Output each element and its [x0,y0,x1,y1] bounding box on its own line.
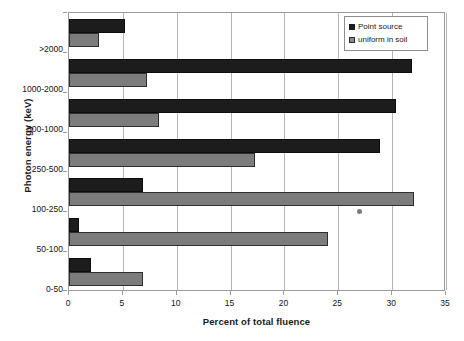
dark-square-icon [349,24,355,30]
x-axis-tick-mark [283,291,284,295]
legend-label: Point source [358,22,402,31]
y-tick-label: 250-500 [3,164,63,174]
x-tick-label: 25 [322,298,352,308]
x-axis-tick-mark [176,291,177,295]
y-axis-tick-mark [63,92,67,93]
x-tick-label: 15 [215,298,245,308]
x-axis-tick-mark [391,291,392,295]
y-tick-label: 1000-2000 [3,84,63,94]
x-tick-label: 20 [268,298,298,308]
y-axis-tick-mark [63,52,67,53]
y-axis-tick-mark [63,12,67,13]
x-axis-tick-mark [122,291,123,295]
chart-figure: Photon energy (keV) >2000 1000-2000 500-… [0,0,464,341]
y-axis-tick-labels: >2000 1000-2000 500-1000 250-500 100-250… [0,12,63,291]
light-square-icon [349,37,355,43]
y-tick-label: 100-250 [3,204,63,214]
chart-legend: Point source uniform in soil [344,16,428,51]
y-tick-label: 500-1000 [3,124,63,134]
y-axis-tick-mark [63,290,67,291]
x-axis-tick-labels: 05101520253035 [68,291,445,311]
gridline-vertical [446,13,447,290]
legend-item-uniform-in-soil: uniform in soil [349,33,423,46]
x-tick-label: 5 [107,298,137,308]
y-axis-tick-mark [63,211,67,212]
x-tick-label: 0 [53,298,83,308]
x-tick-label: 10 [161,298,191,308]
x-axis-title: Percent of total fluence [68,316,445,327]
y-axis-tick-mark [63,251,67,252]
x-axis-tick-mark [68,291,69,295]
legend-item-point-source: Point source [349,20,423,33]
y-axis-tick-mark [63,171,67,172]
y-tick-label: >2000 [3,44,63,54]
y-tick-label: 50-100 [3,244,63,254]
x-tick-label: 30 [376,298,406,308]
y-axis-tick-mark [63,132,67,133]
stray-marker-dot [357,209,362,214]
legend-label: uniform in soil [358,35,407,44]
y-tick-label: 0-50 [3,284,63,294]
plot-area [68,12,445,291]
x-axis-tick-mark [230,291,231,295]
x-tick-label: 35 [430,298,460,308]
x-axis-tick-mark [445,291,446,295]
annotation-markers [69,13,444,290]
x-axis-tick-mark [337,291,338,295]
